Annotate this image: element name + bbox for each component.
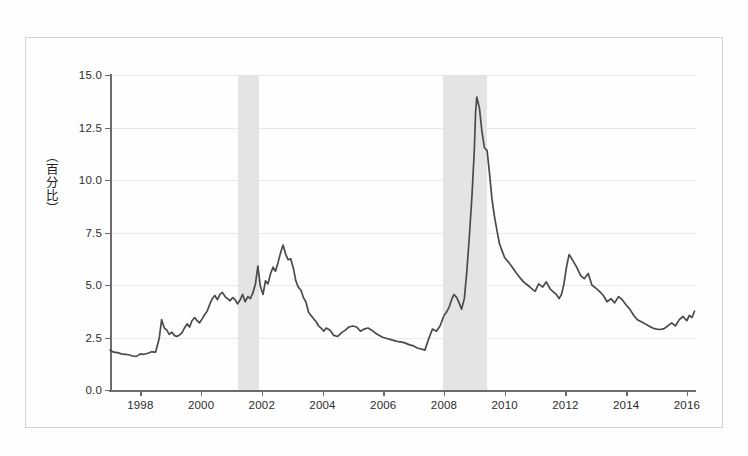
spread-line: [110, 97, 694, 356]
series-layer: [0, 0, 748, 456]
chart-figure: （百分比） 0.02.55.07.510.012.515.0 199820002…: [0, 0, 748, 456]
